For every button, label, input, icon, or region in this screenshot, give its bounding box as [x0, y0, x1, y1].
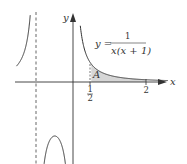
tick-label-half-denominator: 2	[88, 93, 93, 103]
function-graph: x y 1 2 2 A y = 1 x(x + 1)	[0, 0, 187, 164]
curve-middle-branch	[44, 136, 65, 164]
function-label-numerator: 1	[125, 31, 130, 41]
tick-label-two: 2	[144, 85, 149, 95]
y-axis-label: y	[62, 12, 69, 23]
function-label-denominator: x(x + 1)	[111, 45, 151, 56]
y-axis-arrow-icon	[70, 13, 76, 22]
function-label-lhs: y =	[94, 38, 112, 49]
region-label-a: A	[92, 69, 100, 80]
curve-left-branch	[16, 15, 30, 66]
x-axis-label: x	[170, 76, 176, 87]
